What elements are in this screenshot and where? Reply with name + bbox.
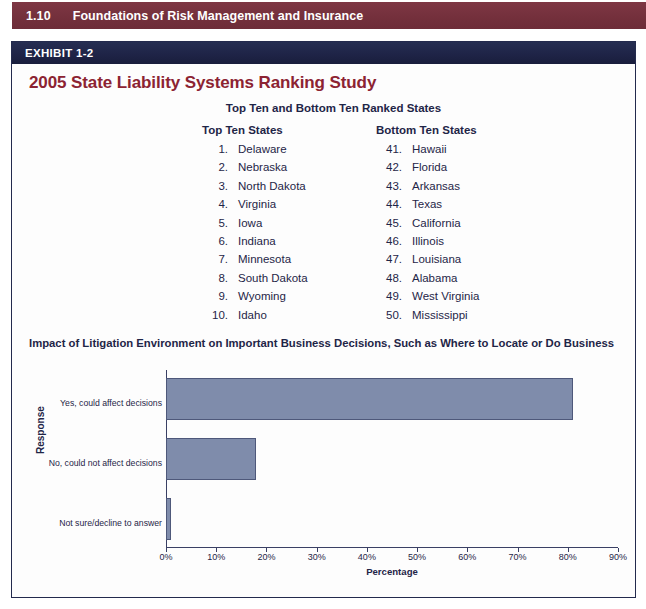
- list-item: 2. Nebraska: [202, 161, 308, 179]
- rank-number: 43.: [376, 180, 412, 192]
- list-item: 48. Alabama: [376, 272, 479, 290]
- x-axis-line: [166, 547, 618, 548]
- list-item: 45. California: [376, 217, 479, 235]
- rank-number: 44.: [376, 198, 412, 210]
- category-labels: Yes, could affect decisions No, could no…: [52, 370, 162, 548]
- rank-state-name: Idaho: [238, 309, 267, 321]
- list-item: 47. Louisiana: [376, 253, 479, 271]
- category-label-1: No, could not affect decisions: [47, 458, 162, 468]
- x-axis-tick-label: 70%: [509, 552, 527, 562]
- x-axis-tick-label: 40%: [358, 552, 376, 562]
- rank-state-name: Iowa: [238, 217, 262, 229]
- list-item: 9. Wyoming: [202, 290, 308, 308]
- rank-state-name: California: [412, 217, 461, 229]
- rank-state-name: Florida: [412, 161, 447, 173]
- rank-state-name: South Dakota: [238, 272, 308, 284]
- bottom-ten-column: Bottom Ten States 41. Hawaii 42. Florida…: [376, 124, 479, 327]
- exhibit-header-bar: EXHIBIT 1-2: [12, 42, 635, 64]
- rank-state-name: Wyoming: [238, 290, 286, 302]
- category-label-2: Not sure/decline to answer: [47, 518, 162, 528]
- rank-state-name: Hawaii: [412, 143, 447, 155]
- rank-number: 6.: [202, 235, 238, 247]
- rank-number: 4.: [202, 198, 238, 210]
- page-folio-number: 1.10: [26, 9, 51, 23]
- x-axis-label: Percentage: [166, 566, 618, 577]
- rank-number: 46.: [376, 235, 412, 247]
- list-item: 49. West Virginia: [376, 290, 479, 308]
- rank-number: 7.: [202, 253, 238, 265]
- rankings-columns: Top Ten States 1. Delaware 2. Nebraska 3…: [12, 124, 635, 329]
- rank-number: 48.: [376, 272, 412, 284]
- page-running-head: 1.10 Foundations of Risk Management and …: [12, 2, 646, 29]
- plot-area: 0%10%20%30%40%50%60%70%80%90%: [166, 370, 618, 548]
- list-item: 44. Texas: [376, 198, 479, 216]
- rank-state-name: Arkansas: [412, 180, 460, 192]
- list-item: 50. Mississippi: [376, 309, 479, 327]
- rank-state-name: Nebraska: [238, 161, 287, 173]
- x-axis-tick-label: 60%: [458, 552, 476, 562]
- rank-state-name: Mississippi: [412, 309, 468, 321]
- rank-state-name: West Virginia: [412, 290, 479, 302]
- list-item: 6. Indiana: [202, 235, 308, 253]
- list-item: 1. Delaware: [202, 143, 308, 161]
- rank-state-name: Minnesota: [238, 253, 291, 265]
- x-axis-tick-label: 50%: [408, 552, 426, 562]
- list-item: 42. Florida: [376, 161, 479, 179]
- list-item: 4. Virginia: [202, 198, 308, 216]
- rankings-block: Top Ten and Bottom Ten Ranked States Top…: [12, 102, 635, 329]
- rank-number: 10.: [202, 309, 238, 321]
- rank-state-name: Texas: [412, 198, 442, 210]
- bar-yes-could-affect-decisions: [166, 378, 573, 420]
- list-item: 10. Idaho: [202, 309, 308, 327]
- chart-title: Impact of Litigation Environment on Impo…: [29, 337, 614, 349]
- rank-number: 49.: [376, 290, 412, 302]
- bar-no-could-not-affect-decisions: [166, 438, 256, 480]
- rank-number: 50.: [376, 309, 412, 321]
- exhibit-container: EXHIBIT 1-2 2005 State Liability Systems…: [11, 41, 636, 598]
- exhibit-title: 2005 State Liability Systems Ranking Stu…: [29, 73, 376, 93]
- list-item: 5. Iowa: [202, 217, 308, 235]
- rank-number: 41.: [376, 143, 412, 155]
- rank-state-name: Alabama: [412, 272, 457, 284]
- rank-number: 42.: [376, 161, 412, 173]
- bottom-ten-heading: Bottom Ten States: [376, 124, 479, 136]
- rank-number: 5.: [202, 217, 238, 229]
- rank-number: 47.: [376, 253, 412, 265]
- rank-state-name: Delaware: [238, 143, 287, 155]
- rank-number: 3.: [202, 180, 238, 192]
- rankings-heading: Top Ten and Bottom Ten Ranked States: [12, 102, 635, 114]
- rank-number: 8.: [202, 272, 238, 284]
- exhibit-label: EXHIBIT 1-2: [25, 47, 93, 59]
- x-axis-tick-label: 30%: [308, 552, 326, 562]
- category-label-0: Yes, could affect decisions: [47, 398, 162, 408]
- y-axis-label: Response: [35, 406, 46, 454]
- top-ten-heading: Top Ten States: [202, 124, 308, 136]
- rank-state-name: Louisiana: [412, 253, 461, 265]
- x-axis-tick-label: 20%: [257, 552, 275, 562]
- list-item: 3. North Dakota: [202, 180, 308, 198]
- page-running-head-title: Foundations of Risk Management and Insur…: [73, 9, 363, 23]
- list-item: 43. Arkansas: [376, 180, 479, 198]
- list-item: 41. Hawaii: [376, 143, 479, 161]
- rank-state-name: North Dakota: [238, 180, 306, 192]
- rank-state-name: Illinois: [412, 235, 444, 247]
- list-item: 46. Illinois: [376, 235, 479, 253]
- rank-number: 9.: [202, 290, 238, 302]
- rank-number: 2.: [202, 161, 238, 173]
- rank-state-name: Virginia: [238, 198, 276, 210]
- bar-chart: Response Yes, could affect decisions No,…: [12, 370, 637, 595]
- list-item: 8. South Dakota: [202, 272, 308, 290]
- rank-state-name: Indiana: [238, 235, 276, 247]
- rank-number: 45.: [376, 217, 412, 229]
- rank-number: 1.: [202, 143, 238, 155]
- list-item: 7. Minnesota: [202, 253, 308, 271]
- top-ten-column: Top Ten States 1. Delaware 2. Nebraska 3…: [202, 124, 308, 327]
- x-axis-tick-label: 0%: [159, 552, 172, 562]
- x-axis-tick-label: 80%: [559, 552, 577, 562]
- x-axis-tick-label: 10%: [207, 552, 225, 562]
- x-axis-tick-label: 90%: [609, 552, 627, 562]
- bar-not-sure-decline-to-answer: [166, 498, 171, 540]
